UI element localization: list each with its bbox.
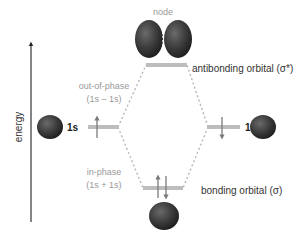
energy-axis: energy	[13, 44, 31, 222]
left-1s-energy-level	[88, 125, 118, 129]
bonding-orbital: in-phase (1s + 1s) bonding orbital (σ)	[86, 167, 282, 230]
out-of-phase-label: out-of-phase	[79, 81, 130, 91]
bonding-energy-level	[143, 186, 183, 190]
in-phase-label: in-phase	[87, 167, 122, 177]
bonding-orbital-sphere-icon	[149, 202, 179, 230]
out-of-phase-formula: (1s – 1s)	[86, 94, 121, 104]
left-atomic-orbital: 1s	[37, 115, 118, 139]
right-1s-sphere-icon	[250, 115, 276, 139]
left-1s-label: 1s	[67, 122, 79, 133]
dashed-line-right-to-antibonding	[187, 65, 208, 127]
antibonding-energy-level	[146, 63, 187, 67]
node-label: node	[153, 7, 173, 17]
dashed-line-left-to-antibonding	[118, 65, 146, 127]
right-1s-energy-level	[208, 125, 240, 129]
antibonding-orbital-label: antibonding orbital (σ*)	[192, 63, 293, 74]
energy-axis-label: energy	[13, 112, 24, 143]
in-phase-formula: (1s + 1s)	[86, 180, 121, 190]
dashed-line-right-to-bonding	[183, 127, 208, 188]
right-atomic-orbital: 1s	[208, 115, 276, 139]
antibonding-orbital: node antibonding orbital (σ*) out-of-pha…	[79, 7, 294, 104]
mo-diagram: energy 1s 1s node antibonding orbital (σ…	[0, 0, 306, 241]
antibonding-left-lobe-icon	[135, 20, 163, 58]
correlation-lines	[118, 65, 208, 188]
dashed-line-left-to-bonding	[118, 127, 143, 188]
antibonding-right-lobe-icon	[164, 20, 192, 58]
bonding-orbital-label: bonding orbital (σ)	[201, 185, 282, 196]
left-1s-sphere-icon	[37, 115, 63, 139]
